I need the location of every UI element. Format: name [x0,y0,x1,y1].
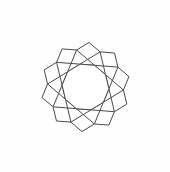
pentagon-rosette-figure [0,0,170,172]
pentagon-tile [71,109,94,132]
pentagon-tile [106,67,129,90]
pentagon-tile [42,84,65,107]
pentagon-tile [77,42,100,65]
inner-decagon-hole [62,64,109,110]
inner-decagon-hole-group [62,64,109,110]
